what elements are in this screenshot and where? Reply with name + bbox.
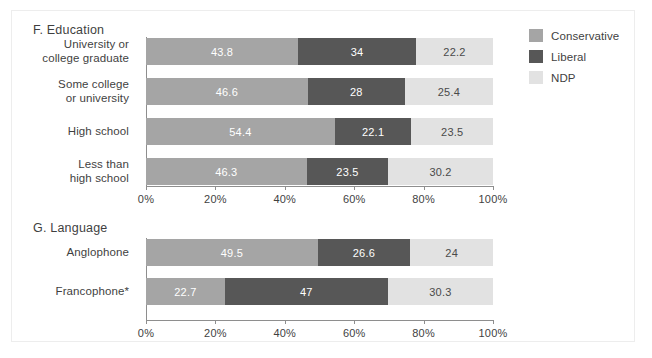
bar-segment[interactable]: 30.2 [388,158,493,185]
legend-swatch-icon [529,50,543,63]
panel-title-education: F. Education [33,23,104,37]
bar-row[interactable]: 46.323.530.2 [146,158,493,185]
x-axis-tick-label: 20% [204,193,227,205]
legend-swatch-icon [529,29,543,42]
x-axis-tick [146,186,147,190]
x-axis-tick-label: 0% [138,193,154,205]
legend-label: Conservative [551,30,619,42]
category-label: Anglophone [0,239,138,266]
legend-label: NDP [551,72,576,84]
bar-segment[interactable]: 46.3 [146,158,307,185]
bar-segment[interactable]: 22.7 [146,278,225,305]
bar-segment[interactable]: 28 [308,78,405,105]
bar-segment[interactable]: 54.4 [146,118,335,145]
legend-label: Liberal [551,51,586,63]
legend-item[interactable]: Liberal [529,48,619,65]
category-label: University orcollege graduate [0,38,138,65]
x-axis-tick-label: 20% [204,327,227,339]
x-axis-tick [285,320,286,324]
x-axis-tick-label: 80% [412,327,435,339]
x-axis-tick-label: 0% [138,327,154,339]
x-axis-tick [493,186,494,190]
bar-segment[interactable]: 23.5 [307,158,389,185]
x-axis-tick-label: 60% [343,327,366,339]
legend: ConservativeLiberalNDP [529,27,619,90]
bar-segment[interactable]: 49.5 [146,239,318,266]
bar-segment[interactable]: 47 [225,278,388,305]
figure-root: F. Education 43.83422.246.62825.454.422.… [0,0,652,358]
category-label-text: Less thanhigh school [70,158,138,185]
plot-area-education: 43.83422.246.62825.454.422.123.546.323.5… [146,38,493,185]
bar-row[interactable]: 54.422.123.5 [146,118,493,145]
x-axis-tick [493,320,494,324]
bar-segment[interactable]: 22.2 [416,38,493,65]
plot-area-language: 49.526.62422.74730.3 [146,239,493,319]
x-axis-tick [424,186,425,190]
legend-item[interactable]: Conservative [529,27,619,44]
x-axis-tick-label: 60% [343,193,366,205]
x-axis-tick-label: 80% [412,193,435,205]
bar-segment[interactable]: 22.1 [335,118,412,145]
legend-swatch-icon [529,71,543,84]
x-axis-tick [215,320,216,324]
bar-row[interactable]: 46.62825.4 [146,78,493,105]
x-axis-tick-label: 100% [479,193,508,205]
bar-row[interactable]: 22.74730.3 [146,278,493,305]
bar-segment[interactable]: 30.3 [388,278,493,305]
x-axis-tick [354,320,355,324]
x-axis-tick [424,320,425,324]
category-label-text: University orcollege graduate [42,38,138,65]
bar-row[interactable]: 49.526.624 [146,239,493,266]
category-label-text: Francophone* [56,285,138,299]
x-axis-tick-label: 40% [273,193,296,205]
category-label: Francophone* [0,278,138,305]
x-axis-tick-label: 100% [479,327,508,339]
category-label: High school [0,118,138,145]
category-label-text: Anglophone [67,246,138,260]
bar-segment[interactable]: 34 [298,38,416,65]
bar-segment[interactable]: 23.5 [411,118,493,145]
panel-title-language: G. Language [33,221,107,235]
bar-segment[interactable]: 43.8 [146,38,298,65]
x-axis-education: 0%20%40%60%80%100% [146,186,493,187]
x-axis-tick [285,186,286,190]
bar-segment[interactable]: 26.6 [318,239,410,266]
bar-segment[interactable]: 46.6 [146,78,308,105]
category-label: Less thanhigh school [0,158,138,185]
x-axis-language: 0%20%40%60%80%100% [146,320,493,321]
x-axis-tick [354,186,355,190]
category-label-text: High school [68,125,138,139]
category-label: Some collegeor university [0,78,138,105]
bar-segment[interactable]: 25.4 [405,78,493,105]
category-label-text: Some collegeor university [58,78,138,105]
bar-segment[interactable]: 24 [410,239,493,266]
legend-item[interactable]: NDP [529,69,619,86]
x-axis-tick-label: 40% [273,327,296,339]
x-axis-tick [215,186,216,190]
x-axis-tick [146,320,147,324]
bar-row[interactable]: 43.83422.2 [146,38,493,65]
